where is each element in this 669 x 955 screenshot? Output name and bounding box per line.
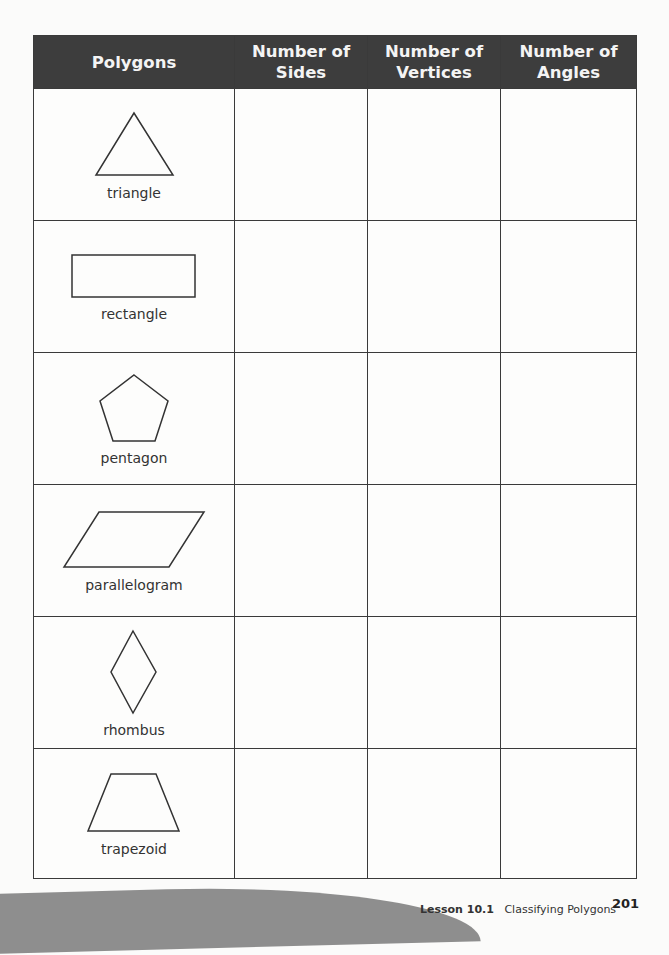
- sides-answer-cell[interactable]: [235, 353, 368, 485]
- table-row-rhombus: rhombus: [34, 617, 637, 749]
- vertices-answer-cell[interactable]: [368, 89, 501, 221]
- shape-label: parallelogram: [34, 577, 234, 593]
- header-sides-line1: Number of: [252, 42, 350, 61]
- vertices-answer-cell[interactable]: [368, 617, 501, 749]
- header-number-of-sides: Number ofSides: [235, 36, 368, 89]
- header-angles-line2: Angles: [537, 63, 600, 82]
- header-vertices-line1: Number of: [385, 42, 483, 61]
- shape-label: pentagon: [34, 450, 234, 466]
- header-number-of-angles: Number ofAngles: [501, 36, 637, 89]
- angles-answer-cell[interactable]: [501, 353, 637, 485]
- shape-label: rectangle: [34, 306, 234, 322]
- polygon-cell: pentagon: [34, 353, 235, 485]
- page-curl-shadow: [0, 881, 481, 955]
- sides-answer-cell[interactable]: [235, 89, 368, 221]
- table-row-parallelogram: parallelogram: [34, 485, 637, 617]
- sides-answer-cell[interactable]: [235, 749, 368, 879]
- angles-answer-cell[interactable]: [501, 485, 637, 617]
- header-row: Polygons Number ofSides Number ofVertice…: [34, 36, 637, 89]
- sides-answer-cell[interactable]: [235, 221, 368, 353]
- header-sides-line2: Sides: [276, 63, 326, 82]
- parallelogram-shape-icon: [61, 509, 207, 571]
- table-row-pentagon: pentagon: [34, 353, 637, 485]
- angles-answer-cell[interactable]: [501, 89, 637, 221]
- trapezoid-shape-icon: [85, 771, 183, 835]
- header-polygons: Polygons: [34, 36, 235, 89]
- rhombus-shape-icon: [108, 628, 160, 716]
- lesson-label: Lesson 10.1: [420, 903, 494, 916]
- shape-label: trapezoid: [34, 841, 234, 857]
- vertices-answer-cell[interactable]: [368, 353, 501, 485]
- rectangle-shape-icon: [69, 252, 199, 300]
- lesson-title: Classifying Polygons: [504, 903, 616, 916]
- polygon-cell: rhombus: [34, 617, 235, 749]
- shape-label: rhombus: [34, 722, 234, 738]
- polygon-cell: parallelogram: [34, 485, 235, 617]
- shape-label: triangle: [34, 185, 234, 201]
- angles-answer-cell[interactable]: [501, 749, 637, 879]
- sides-answer-cell[interactable]: [235, 485, 368, 617]
- table-row-triangle: triangle: [34, 89, 637, 221]
- pentagon-shape-icon: [97, 372, 171, 444]
- angles-answer-cell[interactable]: [501, 617, 637, 749]
- vertices-answer-cell[interactable]: [368, 749, 501, 879]
- polygon-cell: trapezoid: [34, 749, 235, 879]
- triangle-shape-icon: [84, 109, 184, 179]
- vertices-answer-cell[interactable]: [368, 221, 501, 353]
- page-footer: Lesson 10.1 Classifying Polygons: [420, 903, 616, 916]
- header-number-of-vertices: Number ofVertices: [368, 36, 501, 89]
- header-polygons-text: Polygons: [92, 53, 177, 72]
- header-angles-line1: Number of: [519, 42, 617, 61]
- page-number: 201: [612, 896, 639, 911]
- vertices-answer-cell[interactable]: [368, 485, 501, 617]
- polygon-worksheet-table: Polygons Number ofSides Number ofVertice…: [33, 35, 637, 879]
- polygon-cell: rectangle: [34, 221, 235, 353]
- polygon-cell: triangle: [34, 89, 235, 221]
- table-row-trapezoid: trapezoid: [34, 749, 637, 879]
- header-vertices-line2: Vertices: [396, 63, 472, 82]
- angles-answer-cell[interactable]: [501, 221, 637, 353]
- sides-answer-cell[interactable]: [235, 617, 368, 749]
- table-row-rectangle: rectangle: [34, 221, 637, 353]
